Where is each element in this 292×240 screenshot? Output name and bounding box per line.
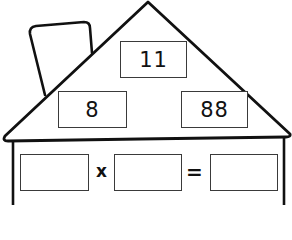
equals-sign: = xyxy=(186,160,203,184)
roof-right-value: 88 xyxy=(200,98,229,122)
roof-right-box: 88 xyxy=(181,91,248,128)
result-box[interactable] xyxy=(210,154,278,191)
operand2-box[interactable] xyxy=(114,154,182,191)
roof-left-value: 8 xyxy=(85,98,99,122)
roof-top-box: 11 xyxy=(120,41,187,78)
operand1-box[interactable] xyxy=(20,154,89,191)
roof-left-box: 8 xyxy=(58,91,127,128)
roof-top-value: 11 xyxy=(139,48,168,72)
multiply-sign: x xyxy=(96,161,107,181)
